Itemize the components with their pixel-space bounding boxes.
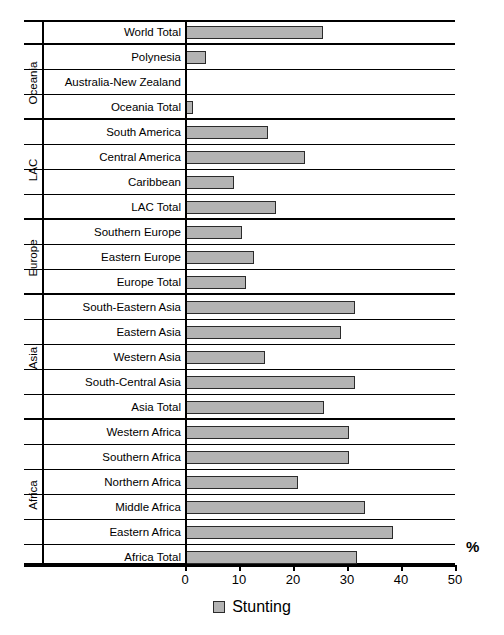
bar-stunting <box>185 251 254 264</box>
x-axis-tick-label: 20 <box>286 572 300 587</box>
bar-stunting <box>185 51 206 64</box>
x-axis-tick <box>239 565 241 571</box>
chart-row: Asia Total <box>24 395 455 420</box>
category-label: Southern Africa <box>102 445 181 470</box>
x-axis-tick <box>185 565 187 571</box>
chart-row: Northern Africa <box>24 470 455 495</box>
chart-row: Western Asia <box>24 345 455 370</box>
chart-row: Caribbean <box>24 170 455 195</box>
bar-stunting <box>185 551 357 564</box>
bar-track <box>185 245 455 270</box>
x-axis-tick <box>455 565 457 571</box>
bar-track <box>185 120 455 145</box>
chart-row: South America <box>24 120 455 145</box>
bar-stunting <box>185 326 341 339</box>
bar-track <box>185 170 455 195</box>
stunting-bar-chart: World TotalPolynesiaAustralia-New Zealan… <box>0 0 504 635</box>
chart-row: Eastern Africa <box>24 520 455 545</box>
chart-row: Australia-New Zealand <box>24 70 455 95</box>
chart-row: Central America <box>24 145 455 170</box>
group-label-asia: Asia <box>24 295 42 420</box>
legend-label-stunting: Stunting <box>232 598 291 616</box>
bar-stunting <box>185 276 246 289</box>
chart-row: Europe Total <box>24 270 455 295</box>
chart-row: Middle Africa <box>24 495 455 520</box>
bar-track <box>185 370 455 395</box>
bar-track <box>185 320 455 345</box>
x-axis-tick <box>293 565 295 571</box>
bar-track <box>185 95 455 120</box>
group-label-text: Europe <box>27 239 39 276</box>
group-label-oceania: Oceania <box>24 45 42 120</box>
category-label: Oceania Total <box>111 95 181 120</box>
bar-track <box>185 195 455 220</box>
bar-track <box>185 470 455 495</box>
chart-row: Western Africa <box>24 420 455 445</box>
category-label: Eastern Europe <box>101 245 181 270</box>
bar-track <box>185 220 455 245</box>
x-axis-tick <box>347 565 349 571</box>
bar-stunting <box>185 126 268 139</box>
bar-stunting <box>185 451 349 464</box>
bar-stunting <box>185 301 355 314</box>
bar-stunting <box>185 376 355 389</box>
bar-track <box>185 345 455 370</box>
group-label-africa: Africa <box>24 420 42 570</box>
value-axis-zero-line <box>185 20 187 571</box>
legend-swatch-stunting <box>213 601 225 613</box>
category-label: Polynesia <box>131 45 181 70</box>
bar-track <box>185 145 455 170</box>
bar-stunting <box>185 501 365 514</box>
group-label-text: Asia <box>27 346 39 368</box>
category-label: South-Eastern Asia <box>83 295 181 320</box>
x-axis-tick-label: 50 <box>448 572 462 587</box>
bar-track <box>185 395 455 420</box>
chart-row: Southern Europe <box>24 220 455 245</box>
percent-unit-label: % <box>466 538 479 555</box>
category-label: Europe Total <box>117 270 181 295</box>
chart-legend: Stunting <box>0 598 504 616</box>
category-label: South America <box>106 120 181 145</box>
bar-track <box>185 495 455 520</box>
category-label: Caribbean <box>128 170 181 195</box>
bar-stunting <box>185 176 234 189</box>
bar-stunting <box>185 476 298 489</box>
category-label: South-Central Asia <box>85 370 181 395</box>
chart-row: World Total <box>24 20 455 45</box>
bar-track <box>185 520 455 545</box>
category-label: LAC Total <box>131 195 181 220</box>
bar-stunting <box>185 401 324 414</box>
chart-row: South-Eastern Asia <box>24 295 455 320</box>
group-label-text: Africa <box>27 480 39 509</box>
bar-track <box>185 70 455 95</box>
category-label: Australia-New Zealand <box>65 70 181 95</box>
category-label: Northern Africa <box>104 470 181 495</box>
chart-row: South-Central Asia <box>24 370 455 395</box>
chart-row: Southern Africa <box>24 445 455 470</box>
chart-row: Eastern Asia <box>24 320 455 345</box>
x-axis-tick-label: 10 <box>232 572 246 587</box>
chart-rows: World TotalPolynesiaAustralia-New Zealan… <box>24 20 455 565</box>
chart-row: Eastern Europe <box>24 245 455 270</box>
category-label: Western Asia <box>113 345 181 370</box>
category-label: Western Africa <box>106 420 181 445</box>
group-label-text: Oceania <box>27 61 39 104</box>
bar-stunting <box>185 351 265 364</box>
bar-stunting <box>185 226 242 239</box>
category-label: Eastern Africa <box>109 520 181 545</box>
bar-stunting <box>185 26 323 39</box>
group-label-lac: LAC <box>24 120 42 220</box>
bar-stunting <box>185 426 349 439</box>
chart-row: Oceania Total <box>24 95 455 120</box>
bar-stunting <box>185 151 305 164</box>
category-label: Southern Europe <box>94 220 181 245</box>
group-label-text: LAC <box>27 159 39 181</box>
category-label: Asia Total <box>131 395 181 420</box>
chart-row: LAC Total <box>24 195 455 220</box>
bar-track <box>185 20 455 45</box>
category-label: Central America <box>99 145 181 170</box>
chart-row: Polynesia <box>24 45 455 70</box>
bar-stunting <box>185 526 393 539</box>
x-axis-tick <box>401 565 403 571</box>
x-axis-tick-label: 40 <box>394 572 408 587</box>
